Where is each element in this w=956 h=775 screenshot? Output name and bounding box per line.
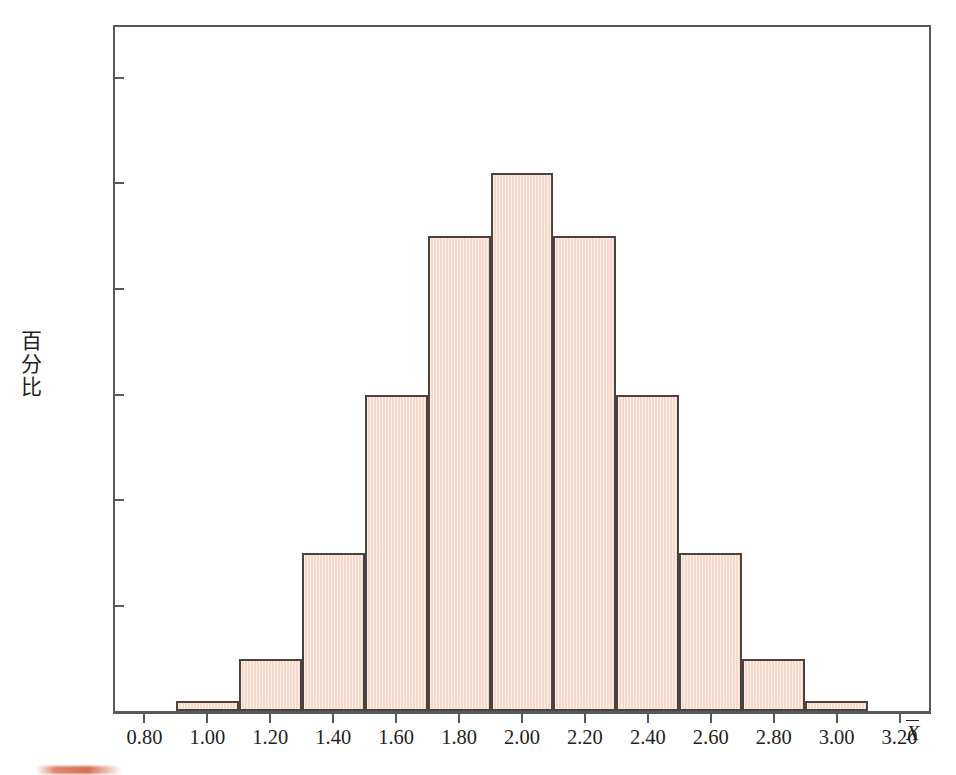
- histogram-bar: [239, 659, 302, 712]
- x-axis-title: X: [906, 720, 919, 746]
- histogram-bar: [805, 701, 868, 712]
- histogram-bar: [428, 236, 491, 712]
- histogram-bar: [742, 659, 805, 712]
- page-scan-artifact: [36, 766, 122, 774]
- histogram-bar: [365, 395, 428, 712]
- histogram-bar: [679, 553, 742, 712]
- x-axis-symbol: X: [906, 720, 919, 744]
- histogram-bar: [302, 553, 365, 712]
- histogram-bar: [553, 236, 616, 712]
- histogram-bar: [491, 173, 554, 712]
- histogram-bar: [616, 395, 679, 712]
- bar-series: [0, 0, 956, 775]
- histogram-bar: [176, 701, 239, 712]
- histogram-chart: 百分比 4.128.2312.3516.4620.5824.69 0.801.0…: [0, 0, 956, 775]
